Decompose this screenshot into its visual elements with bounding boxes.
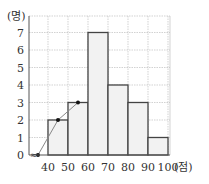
y-tick-label: 3: [17, 97, 24, 110]
x-tick-label: 50: [61, 161, 75, 174]
y-tick-labels: 01234567: [17, 27, 24, 163]
histogram-bar: [68, 103, 88, 156]
y-tick-label: 1: [17, 132, 24, 145]
y-axis-unit-label: (명): [7, 10, 26, 23]
histogram-bar: [88, 33, 108, 156]
x-tick-label: 60: [81, 161, 95, 174]
x-tick-label: 90: [141, 161, 155, 174]
histogram-bar: [128, 103, 148, 156]
polygon-point: [56, 118, 60, 122]
y-tick-label: 5: [17, 62, 24, 75]
axis-break-icon: ≈: [30, 150, 38, 160]
y-tick-label: 0: [17, 149, 24, 162]
x-axis-unit-label: (점): [174, 161, 193, 174]
y-tick-label: 4: [17, 79, 24, 92]
histogram-bars: [48, 33, 168, 156]
histogram-chart: 01234567 405060708090100 (명) (점) ≈: [0, 0, 209, 184]
x-tick-label: 80: [121, 161, 135, 174]
y-tick-label: 6: [17, 44, 24, 57]
histogram-bar: [148, 138, 168, 156]
x-tick-label: 40: [41, 161, 55, 174]
x-tick-label: 70: [101, 161, 115, 174]
polygon-point: [76, 101, 80, 105]
histogram-bar: [108, 85, 128, 155]
y-tick-label: 7: [17, 27, 24, 40]
y-tick-label: 2: [17, 114, 24, 127]
histogram-bar: [48, 120, 68, 155]
x-tick-labels: 405060708090100: [41, 161, 179, 174]
